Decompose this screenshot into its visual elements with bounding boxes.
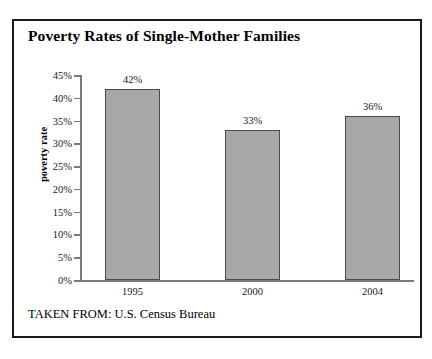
y-axis-tick-label: 30% xyxy=(16,138,72,149)
bar-value-label: 33% xyxy=(225,115,280,126)
y-axis-tick xyxy=(74,75,80,77)
x-axis-tick-label: 2000 xyxy=(213,286,292,297)
x-axis-tick-label: 2004 xyxy=(333,286,412,297)
y-axis-tick-label: 25% xyxy=(16,161,72,172)
y-axis-tick-label: 0% xyxy=(16,275,72,286)
y-axis-tick-label: 35% xyxy=(16,115,72,126)
y-axis-tick xyxy=(74,234,80,236)
y-axis-tick xyxy=(74,143,80,145)
bar xyxy=(345,116,400,280)
y-axis-tick xyxy=(74,189,80,191)
x-axis-tick-label: 1995 xyxy=(93,286,172,297)
chart-frame: Poverty Rates of Single-Mother Families … xyxy=(12,19,422,338)
y-axis-tick-label: 20% xyxy=(16,183,72,194)
plot-area: poverty rate 0%5%10%15%20%25%30%35%40%45… xyxy=(14,21,420,336)
source-note: TAKEN FROM: U.S. Census Bureau xyxy=(28,307,215,322)
bar xyxy=(105,89,160,280)
bar-value-label: 42% xyxy=(105,74,160,85)
y-axis-tick xyxy=(74,257,80,259)
y-axis-tick xyxy=(74,98,80,100)
x-axis-baseline xyxy=(80,280,414,282)
figure-page: Poverty Rates of Single-Mother Families … xyxy=(0,0,432,359)
bar-value-label: 36% xyxy=(345,101,400,112)
y-axis-tick xyxy=(74,280,80,282)
y-axis-tick-label: 5% xyxy=(16,252,72,263)
y-axis-tick-label: 45% xyxy=(16,70,72,81)
y-axis-tick-label: 10% xyxy=(16,229,72,240)
y-axis-line xyxy=(80,75,82,281)
y-axis-tick-label: 40% xyxy=(16,92,72,103)
y-axis-tick xyxy=(74,212,80,214)
y-axis-tick-label: 15% xyxy=(16,206,72,217)
y-axis-tick xyxy=(74,121,80,123)
y-axis-tick xyxy=(74,166,80,168)
bar xyxy=(225,130,280,280)
y-axis-tick-labels: 0%5%10%15%20%25%30%35%40%45% xyxy=(14,21,72,336)
